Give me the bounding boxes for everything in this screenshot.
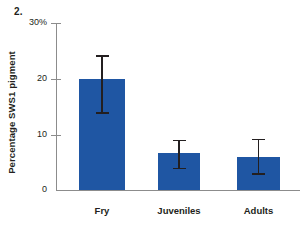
x-label-fry: Fry xyxy=(79,205,125,216)
y-tick-label-0: 0 xyxy=(42,184,47,194)
bar-chart: Percentage SWS1 pigment 30% 20 10 0 Fry … xyxy=(0,0,306,230)
error-bar-cap-upper-juveniles xyxy=(173,140,186,142)
y-axis-line xyxy=(56,23,57,191)
error-bar-cap-lower-juveniles xyxy=(173,168,186,170)
error-bar-line-juveniles xyxy=(178,140,180,168)
x-label-adults: Adults xyxy=(230,205,287,216)
y-axis-label: Percentage SWS1 pigment xyxy=(6,28,17,198)
y-tick-label-10: 10 xyxy=(37,129,47,139)
error-bar-line-fry xyxy=(101,55,103,112)
error-bar-cap-upper-adults xyxy=(252,139,265,141)
y-tick-10 xyxy=(51,135,61,136)
error-bar-line-adults xyxy=(258,139,260,174)
y-tick-label-20: 20 xyxy=(37,73,47,83)
y-tick-label-30: 30% xyxy=(29,17,47,27)
x-label-juveniles: Juveniles xyxy=(150,205,208,216)
y-tick-30 xyxy=(51,23,61,24)
error-bar-cap-upper-fry xyxy=(96,55,109,57)
error-bar-cap-lower-fry xyxy=(96,112,109,114)
y-tick-20 xyxy=(51,79,61,80)
x-axis-line xyxy=(56,190,300,191)
error-bar-cap-lower-adults xyxy=(252,173,265,175)
